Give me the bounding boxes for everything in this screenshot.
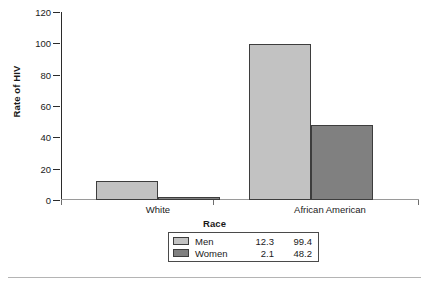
bar-white-men [96,181,158,200]
y-tick-label-40: 40 [5,132,51,143]
y-tick-20 [53,169,60,170]
bar-african-american-men [249,44,311,200]
bar-white-women [158,197,220,200]
legend-label-women: Women [195,248,241,259]
legend-value-women-white: 2.1 [241,248,274,259]
legend-value-men-white: 12.3 [241,236,274,247]
x-tick-mid [213,200,214,205]
bar-african-american-women [311,125,373,201]
y-tick-120 [53,12,60,13]
page-divider [8,277,421,278]
x-tick-left [61,200,62,205]
y-tick-40 [53,137,60,138]
y-axis-title: Rate of HIV [11,49,22,135]
y-axis-line [61,12,62,200]
y-tick-0 [53,200,60,201]
legend-row-women: Women 2.1 48.2 [173,247,312,259]
x-axis-title: Race [0,218,429,229]
plot-area: 0 20 40 60 80 100 120 [61,12,419,200]
y-tick-label-0: 0 [5,195,51,206]
y-tick-80 [53,75,60,76]
y-tick-60 [53,106,60,107]
y-tick-label-100: 100 [5,38,51,49]
legend-value-men-african-american: 99.4 [274,236,312,247]
legend-row-men: Men 12.3 99.4 [173,235,312,247]
legend-swatch-women-icon [173,249,189,257]
y-tick-100 [53,43,60,44]
legend-swatch-men-icon [173,237,189,245]
y-tick-label-20: 20 [5,163,51,174]
group-label-white: White [146,204,170,215]
y-tick-label-120: 120 [5,7,51,18]
x-tick-right [418,200,419,205]
legend-label-men: Men [195,236,241,247]
y-tick-label-80: 80 [5,69,51,80]
group-label-african-american: African American [294,204,366,215]
legend-value-women-african-american: 48.2 [274,248,312,259]
y-tick-label-60: 60 [5,101,51,112]
hiv-rate-bar-chart: Rate of HIV 0 20 40 60 80 100 [0,0,429,287]
legend: Men 12.3 99.4 Women 2.1 48.2 [168,232,319,262]
